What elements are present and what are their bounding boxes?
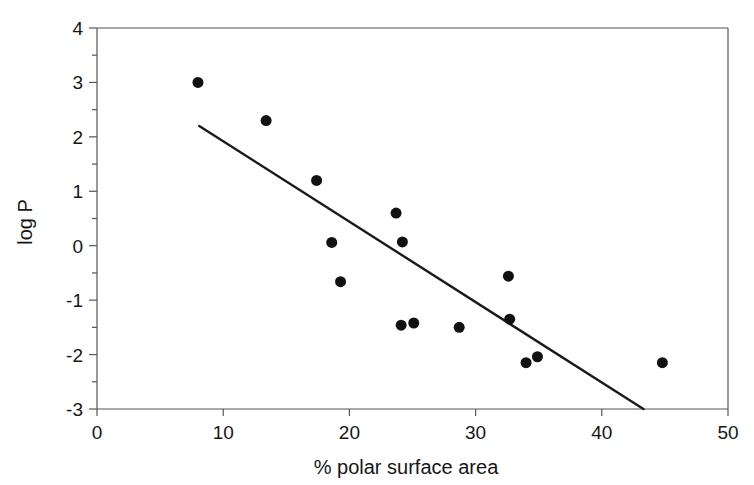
data-point (408, 318, 419, 329)
y-tick-label: 4 (72, 18, 83, 39)
data-point (454, 322, 465, 333)
plot-background (0, 0, 754, 485)
data-point (657, 357, 668, 368)
y-tick-label: 0 (72, 236, 83, 257)
x-tick-label: 40 (591, 422, 612, 443)
data-point (391, 208, 402, 219)
data-point (503, 271, 514, 282)
y-tick-label: -1 (66, 290, 83, 311)
data-point (192, 77, 203, 88)
x-tick-label: 50 (717, 422, 738, 443)
y-tick-label: 2 (72, 127, 83, 148)
data-point (326, 237, 337, 248)
x-tick-label: 0 (92, 422, 103, 443)
x-tick-label: 10 (213, 422, 234, 443)
x-tick-label: 20 (339, 422, 360, 443)
data-point (261, 115, 272, 126)
x-axis-title: % polar surface area (314, 456, 499, 478)
data-point (396, 320, 407, 331)
x-tick-label: 30 (465, 422, 486, 443)
y-axis-title: log P (14, 199, 36, 245)
scatter-plot: 01020304050 43210-1-2-3 % polar surface … (0, 0, 754, 485)
data-point (397, 236, 408, 247)
data-point (311, 175, 322, 186)
y-tick-label: 1 (72, 181, 83, 202)
y-tick-label: -2 (66, 345, 83, 366)
data-point (335, 276, 346, 287)
data-point (532, 351, 543, 362)
y-tick-label: -3 (66, 399, 83, 420)
data-point (521, 357, 532, 368)
chart-page: 01020304050 43210-1-2-3 % polar surface … (0, 0, 754, 485)
y-tick-label: 3 (72, 72, 83, 93)
data-point (504, 314, 515, 325)
